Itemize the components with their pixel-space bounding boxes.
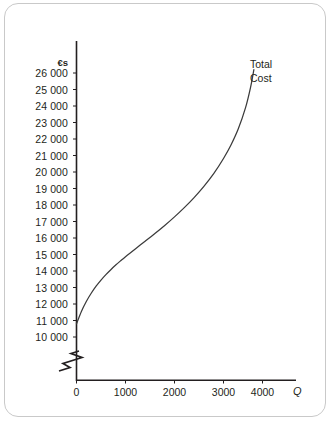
x-tick-label-2000: 2000 xyxy=(152,386,198,398)
y-tick-label-15000: 15 000 xyxy=(16,249,68,261)
series-label-line-2: Cost xyxy=(250,71,272,85)
series-label-line-1: Total xyxy=(250,57,272,71)
y-tick-label-25000: 25 000 xyxy=(16,84,68,96)
y-tick-label-21000: 21 000 xyxy=(16,150,68,162)
y-tick-label-12000: 12 000 xyxy=(16,298,68,310)
y-tick-label-24000: 24 000 xyxy=(16,100,68,112)
axis-break-symbol xyxy=(59,351,82,371)
y-tick-label-18000: 18 000 xyxy=(16,199,68,211)
y-tick-label-11000: 11 000 xyxy=(16,315,68,327)
x-tick-label-0: 0 xyxy=(54,386,100,398)
y-tick-label-10000: 10 000 xyxy=(16,331,68,343)
y-tick-label-17000: 17 000 xyxy=(16,216,68,228)
y-tick-label-16000: 16 000 xyxy=(16,232,68,244)
y-tick-label-22000: 22 000 xyxy=(16,133,68,145)
y-tick-label-23000: 23 000 xyxy=(16,117,68,129)
y-tick-label-19000: 19 000 xyxy=(16,183,68,195)
y-tick-label-20000: 20 000 xyxy=(16,166,68,178)
total-cost-curve xyxy=(77,70,254,324)
x-tick-label-1000: 1000 xyxy=(103,386,149,398)
y-tick-label-14000: 14 000 xyxy=(16,265,68,277)
series-label-total-cost: Total Cost xyxy=(250,57,272,85)
x-tick-label-4000: 4000 xyxy=(240,386,286,398)
x-axis-name-label: Q xyxy=(293,385,302,397)
chart-figure: €s 26 000 25 000 24 000 23 000 22 000 21… xyxy=(0,0,331,423)
y-tick-label-26000: 26 000 xyxy=(16,67,68,79)
y-tick-label-13000: 13 000 xyxy=(16,282,68,294)
